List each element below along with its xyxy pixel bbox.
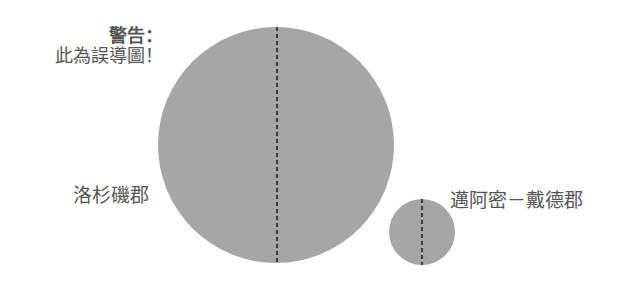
- label-los-angeles: 洛杉磯郡: [73, 180, 149, 207]
- circle-los-angeles: [158, 27, 394, 263]
- label-miami-dade: 邁阿密－戴德郡: [450, 185, 583, 212]
- bubble-chart: [0, 0, 625, 281]
